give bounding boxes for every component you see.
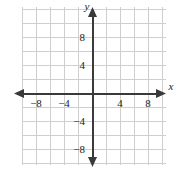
coordinate-plane-figure: −8 −4 4 8 8 4 −4 −8 x y — [0, 0, 178, 172]
x-tick-label-neg8: −8 — [30, 97, 42, 109]
x-axis-right-arrowhead — [156, 89, 166, 98]
x-tick-label-neg4: −4 — [58, 97, 70, 109]
y-tick-label-neg4: −4 — [73, 115, 85, 127]
x-tick-label-pos4: 4 — [117, 97, 123, 109]
x-axis-left-arrowhead — [14, 89, 24, 98]
x-tick-label-pos8: 8 — [145, 97, 151, 109]
coordinate-plane-svg: −8 −4 4 8 8 4 −4 −8 x y — [0, 0, 178, 172]
x-axis-label: x — [168, 80, 174, 92]
y-tick-label-neg8: −8 — [73, 143, 85, 155]
horizontal-gridlines — [22, 10, 166, 164]
y-tick-label-pos4: 4 — [80, 59, 86, 71]
y-axis-down-arrowhead — [88, 157, 97, 167]
y-axis-label: y — [84, 0, 90, 12]
y-axis — [88, 7, 97, 167]
y-tick-label-pos8: 8 — [80, 31, 86, 43]
